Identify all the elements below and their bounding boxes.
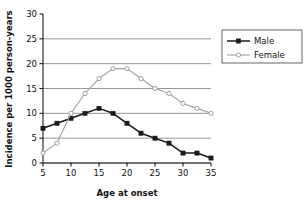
legend: MaleFemale bbox=[222, 30, 302, 63]
data-point-marker bbox=[195, 106, 199, 110]
y-axis-tick-label: 0 bbox=[32, 158, 37, 168]
data-point-marker bbox=[153, 136, 157, 140]
legend-marker bbox=[236, 39, 240, 43]
data-point-marker bbox=[55, 121, 59, 125]
data-point-marker bbox=[209, 111, 213, 115]
data-point-marker bbox=[83, 111, 87, 115]
data-point-marker bbox=[41, 151, 45, 155]
x-axis-tick-label: 25 bbox=[150, 168, 161, 178]
y-axis-title: Incidence per 1000 person-years bbox=[4, 10, 14, 167]
x-axis-tick-label: 20 bbox=[122, 168, 133, 178]
data-point-marker bbox=[139, 131, 143, 135]
data-point-marker bbox=[97, 106, 101, 110]
y-axis-tick-label: 25 bbox=[26, 34, 37, 44]
y-axis-tick-label: 5 bbox=[32, 133, 37, 143]
data-point-marker bbox=[55, 141, 59, 145]
data-point-marker bbox=[125, 121, 129, 125]
x-axis-tick-label: 15 bbox=[94, 168, 105, 178]
data-point-marker bbox=[153, 86, 157, 90]
data-point-marker bbox=[69, 111, 73, 115]
data-point-marker bbox=[41, 126, 45, 130]
data-point-marker bbox=[83, 91, 87, 95]
data-point-marker bbox=[167, 141, 171, 145]
legend-label: Male bbox=[254, 36, 274, 46]
legend-marker bbox=[236, 53, 240, 57]
legend-label: Female bbox=[254, 50, 285, 60]
data-point-marker bbox=[97, 76, 101, 80]
x-axis-title: Age at onset bbox=[97, 188, 158, 198]
data-point-marker bbox=[209, 156, 213, 160]
y-axis-tick-label: 30 bbox=[26, 9, 37, 19]
data-point-marker bbox=[195, 151, 199, 155]
data-point-marker bbox=[111, 67, 115, 71]
data-point-marker bbox=[125, 67, 129, 71]
y-axis-tick-label: 20 bbox=[26, 59, 37, 69]
chart-figure: 051015202530 5101520253035 Age at onset … bbox=[0, 0, 305, 204]
y-axis-tick-label: 15 bbox=[26, 84, 37, 94]
y-axis-tick-label: 10 bbox=[26, 108, 37, 118]
data-point-marker bbox=[167, 91, 171, 95]
data-point-marker bbox=[181, 101, 185, 105]
incidence-by-age-line-chart: 051015202530 5101520253035 Age at onset … bbox=[0, 0, 305, 204]
x-axis-tick-label: 5 bbox=[40, 168, 45, 178]
data-point-marker bbox=[139, 76, 143, 80]
x-axis-tick-label: 35 bbox=[206, 168, 217, 178]
x-axis-tick-label: 10 bbox=[66, 168, 77, 178]
x-axis-tick-label: 30 bbox=[178, 168, 189, 178]
data-point-marker bbox=[181, 151, 185, 155]
data-point-marker bbox=[111, 111, 115, 115]
